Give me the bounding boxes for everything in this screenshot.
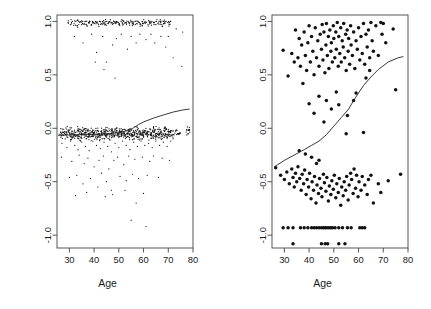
data-point — [176, 130, 177, 131]
data-points-group — [58, 19, 190, 227]
data-point — [122, 135, 123, 136]
data-point — [60, 128, 61, 129]
data-point — [69, 127, 70, 128]
data-point — [123, 134, 124, 135]
data-point — [379, 191, 383, 195]
y-tick-label: -0.5 — [43, 174, 54, 190]
data-point — [122, 129, 123, 130]
scatter-plot-per-observation: 304050607080-1.0-0.50.00.51.0 — [0, 0, 215, 309]
data-point — [328, 28, 332, 32]
data-point — [98, 160, 99, 161]
data-point — [118, 134, 119, 135]
residual-diagnostic-figure: 304050607080-1.0-0.50.00.51.0 Residual, … — [0, 0, 431, 309]
data-point — [142, 157, 143, 158]
data-point — [103, 20, 104, 21]
data-point — [159, 145, 160, 146]
data-point — [153, 155, 154, 156]
data-point — [136, 127, 137, 128]
data-point — [104, 23, 105, 24]
data-point — [160, 22, 161, 23]
data-point — [128, 133, 129, 134]
data-point — [349, 24, 353, 28]
data-point — [127, 49, 128, 50]
data-point — [295, 180, 299, 184]
data-point — [71, 127, 72, 128]
data-point — [161, 24, 162, 25]
data-point — [97, 130, 98, 131]
data-point — [85, 136, 86, 137]
data-point — [182, 31, 183, 32]
data-point — [84, 128, 85, 129]
data-point — [167, 137, 168, 138]
data-point — [302, 226, 306, 230]
data-point — [337, 65, 341, 69]
data-point — [323, 181, 327, 185]
data-point — [89, 132, 90, 133]
data-point — [112, 22, 113, 23]
data-point — [102, 135, 103, 136]
data-point — [154, 22, 155, 23]
data-point — [125, 138, 126, 139]
data-point — [382, 22, 386, 26]
data-point — [140, 141, 141, 142]
data-point — [132, 134, 133, 135]
data-point — [78, 138, 79, 139]
data-point — [337, 191, 341, 195]
data-point — [85, 128, 86, 129]
data-point — [97, 186, 98, 187]
data-point — [114, 77, 115, 78]
y-tick-label: 0.5 — [43, 68, 54, 81]
data-point — [337, 226, 341, 230]
data-point — [294, 28, 298, 32]
data-point — [181, 66, 182, 67]
data-point — [147, 175, 148, 176]
data-point — [155, 137, 156, 138]
data-point — [372, 50, 376, 54]
data-point — [315, 56, 319, 60]
data-point — [102, 22, 103, 23]
data-point — [386, 179, 390, 183]
data-point — [59, 134, 60, 135]
data-point — [69, 130, 70, 131]
data-point — [149, 161, 150, 162]
data-point — [91, 132, 92, 133]
data-point — [106, 61, 107, 62]
data-point — [145, 226, 146, 227]
data-point — [78, 24, 79, 25]
data-point — [377, 182, 381, 186]
data-point — [310, 180, 314, 184]
data-point — [77, 20, 78, 21]
data-point — [126, 133, 127, 134]
data-point — [106, 181, 107, 182]
data-point — [116, 38, 117, 39]
data-point — [103, 69, 104, 70]
data-point — [187, 126, 188, 127]
data-point — [143, 19, 144, 20]
data-point — [118, 136, 119, 137]
data-point — [129, 25, 130, 26]
data-point — [361, 175, 365, 179]
data-point — [137, 146, 138, 147]
data-point — [362, 131, 366, 135]
data-point — [155, 126, 156, 127]
data-point — [286, 226, 290, 230]
data-point — [72, 137, 73, 138]
data-point — [94, 22, 95, 23]
data-point — [160, 132, 161, 133]
data-point — [363, 183, 367, 187]
x-tick-label: 30 — [279, 254, 289, 265]
data-point — [160, 137, 161, 138]
data-point — [314, 26, 318, 30]
data-point — [86, 24, 87, 25]
data-point — [135, 24, 136, 25]
data-point — [87, 131, 88, 132]
data-point — [150, 132, 151, 133]
data-point — [139, 136, 140, 137]
data-point — [145, 130, 146, 131]
data-point — [354, 186, 358, 190]
data-point — [110, 19, 111, 20]
data-point — [151, 22, 152, 23]
data-point — [156, 21, 157, 22]
data-point — [96, 145, 97, 146]
data-point — [113, 131, 114, 132]
